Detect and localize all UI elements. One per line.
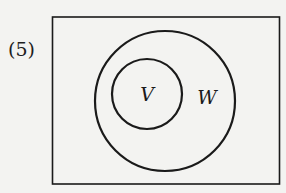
set-w-label: W (197, 86, 218, 108)
venn-diagram-figure: (5) V W (0, 0, 286, 193)
universe-rectangle (53, 17, 280, 184)
venn-diagram: V W (0, 0, 286, 193)
set-v-label: V (140, 83, 156, 105)
